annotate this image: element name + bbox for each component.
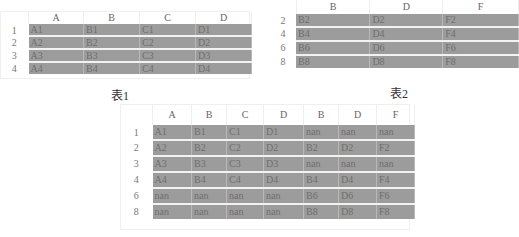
row-index: 1 [0,24,29,36]
data-cell: F8 [443,55,519,68]
data-cell: C3 [227,156,264,172]
row-index: 3 [0,49,29,62]
data-cell: B2 [84,36,140,49]
corner-cell [270,0,296,14]
data-cell: nan [192,204,227,219]
table-1: A B C D 1 A1 B1 C1 D1 2 A2 B2 C2 D2 3 A3… [0,12,252,74]
data-cell: F4 [443,27,519,41]
data-cell: nan [339,125,377,140]
data-cell: A3 [29,49,84,62]
column-header: B [304,105,339,125]
data-cell: A1 [153,125,192,140]
row-index: 2 [270,14,296,27]
data-cell: C1 [140,24,196,36]
data-cell: nan [153,204,192,219]
column-header: F [377,105,415,125]
column-header: A [29,12,84,24]
data-cell: C4 [140,62,196,74]
row-index: 2 [0,36,29,49]
column-header: C [227,105,264,125]
data-cell: B8 [296,55,370,68]
corner-cell [120,105,153,125]
data-cell: D4 [370,27,443,41]
data-cell: A4 [153,172,192,188]
data-cell: D4 [264,172,304,188]
data-cell: F2 [377,140,415,156]
row-index: 3 [120,156,153,172]
data-cell: C2 [227,140,264,156]
data-cell: B4 [84,62,140,74]
column-header: D [264,105,304,125]
data-cell: nan [304,156,339,172]
data-cell: nan [377,156,415,172]
data-cell: B1 [84,24,140,36]
data-cell: B4 [296,27,370,41]
table-row: 2 A2 B2 C2 D2 B2 D2 F2 [120,140,415,156]
table-row: 4 B4 D4 F4 [270,27,519,41]
row-index: 4 [270,27,296,41]
data-cell: B2 [296,14,370,27]
data-cell: A1 [29,24,84,36]
column-header: C [140,12,196,24]
data-cell: C2 [140,36,196,49]
data-cell: F2 [443,14,519,27]
row-index: 4 [0,62,29,74]
table-row: 6 nan nan nan nan B6 D6 F6 [120,188,415,204]
table-row: 3 A3 B3 C3 D3 nan nan nan [120,156,415,172]
header-row: A B C D B D F [120,105,415,125]
data-cell: nan [339,156,377,172]
table-row: 8 B8 D8 F8 [270,55,519,68]
data-cell: nan [377,125,415,140]
table-row: 1 A1 B1 C1 D1 [0,24,252,36]
data-cell: A3 [153,156,192,172]
table-row: 4 A4 B4 C4 D4 B4 D4 F4 [120,172,415,188]
data-cell: B1 [192,125,227,140]
column-header: B [192,105,227,125]
data-cell: D1 [196,24,252,36]
data-cell: F6 [377,188,415,204]
column-header: B [84,12,140,24]
data-cell: B8 [304,204,339,219]
data-cell: D8 [370,55,443,68]
row-index: 6 [120,188,153,204]
table-row: 1 A1 B1 C1 D1 nan nan nan [120,125,415,140]
data-cell: D6 [339,188,377,204]
data-cell: nan [227,188,264,204]
data-cell: B3 [192,156,227,172]
data-cell: D3 [196,49,252,62]
data-cell: D8 [339,204,377,219]
table-row: 4 A4 B4 C4 D4 [0,62,252,74]
data-cell: nan [304,125,339,140]
data-cell: B6 [304,188,339,204]
table-row: 2 B2 D2 F2 [270,14,519,27]
data-cell: nan [192,188,227,204]
data-cell: nan [153,188,192,204]
data-cell: B2 [192,140,227,156]
corner-cell [0,12,29,24]
data-cell: nan [264,188,304,204]
table2-caption: 表2 [390,84,408,102]
header-row: B D F [270,0,519,14]
data-cell: A2 [153,140,192,156]
data-cell: D3 [264,156,304,172]
header-row: A B C D [0,12,252,24]
data-cell: D2 [370,14,443,27]
row-index: 2 [120,140,153,156]
column-header: B [296,0,370,14]
data-cell: D2 [339,140,377,156]
data-cell: nan [264,204,304,219]
column-header: D [339,105,377,125]
table-row: 8 nan nan nan nan B8 D8 F8 [120,204,415,219]
row-index: 8 [270,55,296,68]
row-index: 8 [120,204,153,219]
data-cell: A2 [29,36,84,49]
data-cell: B3 [84,49,140,62]
data-cell: C4 [227,172,264,188]
table-3: A B C D B D F 1 A1 B1 C1 D1 nan nan nan … [120,105,415,219]
data-cell: D2 [196,36,252,49]
data-cell: A4 [29,62,84,74]
table-2: B D F 2 B2 D2 F2 4 B4 D4 F4 6 B6 D6 F6 8… [270,0,519,68]
data-cell: D4 [196,62,252,74]
data-cell: F8 [377,204,415,219]
data-cell: D4 [339,172,377,188]
